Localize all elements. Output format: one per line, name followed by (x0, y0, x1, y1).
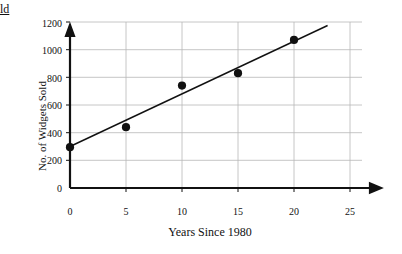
axis-lines (66, 25, 381, 193)
horizontal-gridlines (70, 22, 362, 160)
plot-area (0, 0, 402, 254)
data-point-year-15 (234, 69, 242, 77)
y-axis-arrow-icon (66, 25, 74, 36)
trend-line (70, 26, 328, 147)
data-point-year-20 (290, 36, 298, 44)
data-point-year-5 (122, 123, 130, 131)
data-point-year-10 (178, 82, 186, 90)
chart-figure: ld No. of Widgets Sold Years Since 1980 … (0, 0, 402, 254)
x-axis-arrow-icon (370, 184, 381, 193)
data-point-year-0 (66, 143, 74, 151)
